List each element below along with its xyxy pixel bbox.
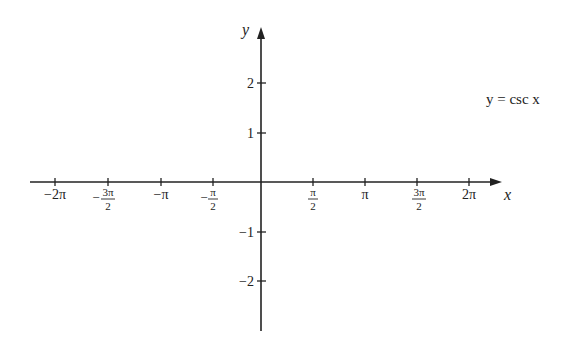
x-tick-neg-2pi: −2π (44, 187, 66, 202)
x-tick-3pi-2: 3π 2 (412, 186, 426, 212)
svg-text:3π: 3π (102, 186, 114, 198)
csc-graph: y x 2 1 −1 −2 −2π − 3π 2 −π − π 2 π 2 π … (0, 0, 567, 358)
y-tick-neg-2: −2 (239, 274, 254, 289)
svg-text:π: π (310, 186, 316, 198)
svg-text:2: 2 (105, 200, 111, 212)
y-tick-2: 2 (247, 76, 254, 91)
equation-annotation: y = csc x (486, 91, 540, 107)
x-tick-neg-pi: −π (154, 187, 169, 202)
svg-text:2: 2 (416, 200, 422, 212)
y-tick-neg-1: −1 (239, 225, 254, 240)
x-tick-neg-pi-2: − π 2 (200, 186, 218, 212)
x-tick-neg-3pi-2: − 3π 2 (92, 186, 115, 212)
x-tick-pi-2: π 2 (308, 186, 318, 212)
x-tick-pi: π (361, 187, 368, 202)
svg-text:3π: 3π (413, 186, 425, 198)
y-tick-1: 1 (247, 126, 254, 141)
svg-text:−: − (200, 190, 207, 205)
x-axis (30, 178, 502, 186)
y-axis-arrow-icon (257, 27, 265, 39)
svg-text:π: π (210, 186, 216, 198)
x-tick-2pi: 2π (462, 187, 476, 202)
x-axis-arrow-icon (490, 178, 502, 186)
y-axis-label: y (240, 21, 250, 39)
x-axis-label: x (503, 186, 511, 203)
y-axis (257, 27, 266, 331)
svg-text:−: − (92, 190, 99, 205)
svg-text:2: 2 (210, 200, 216, 212)
svg-text:2: 2 (310, 200, 316, 212)
